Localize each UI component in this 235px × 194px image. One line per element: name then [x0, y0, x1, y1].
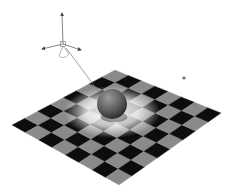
gizmo-up-arrow-icon[interactable] [62, 13, 63, 44]
gizmo-left-arrow-icon[interactable] [42, 44, 63, 49]
spotlight-gizmo[interactable] [42, 13, 99, 92]
checkerboard-plane[interactable] [12, 70, 221, 185]
scene-canvas[interactable] [0, 0, 235, 194]
sphere-object[interactable] [97, 89, 127, 119]
spotlight-beam-line [66, 48, 99, 92]
spotlight-cone-icon [59, 46, 69, 58]
point-light-marker-icon[interactable] [182, 76, 185, 79]
3d-viewport[interactable]: 3D viewport: checkerboard plane with sph… [0, 0, 235, 194]
